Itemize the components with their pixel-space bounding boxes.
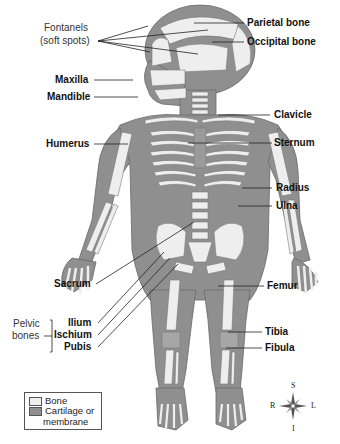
label-femur: Femur	[267, 280, 298, 292]
sternum-bone	[194, 128, 206, 168]
label-fibula: Fibula	[265, 342, 294, 354]
mandible-bone	[154, 88, 186, 100]
fibula-bone	[231, 352, 235, 384]
label-radius: Radius	[276, 182, 309, 194]
legend-label-cartilage: Cartilage or	[45, 405, 94, 416]
legend-item-cartilage: Cartilage or	[29, 405, 94, 416]
compass-left-label: L	[311, 401, 316, 410]
label-ischium: Ischium	[54, 329, 92, 341]
label-mandible: Mandible	[47, 91, 90, 103]
label-ilium: Ilium	[68, 317, 91, 329]
tibia-bone	[220, 350, 230, 384]
compass-rose-icon	[279, 392, 307, 420]
lumbar-vertebrae	[192, 192, 208, 239]
label-occipital-bone: Occipital bone	[247, 36, 316, 48]
label-fontanels-line1: Fontanels	[44, 22, 88, 34]
label-pubis: Pubis	[64, 341, 91, 353]
compass-superior-label: S	[291, 381, 295, 390]
label-maxilla: Maxilla	[55, 74, 88, 86]
label-ulna: Ulna	[276, 200, 298, 212]
label-fontanels-line2: (soft spots)	[40, 35, 89, 47]
label-sternum: Sternum	[274, 137, 315, 149]
compass-inferior-label: I	[292, 424, 295, 433]
label-pelvic-line1: Pelvic	[13, 318, 40, 330]
temporal-bone	[176, 44, 228, 72]
maxilla-bone	[150, 70, 185, 86]
label-pelvic-line2: bones	[12, 330, 39, 342]
ilium-bone	[156, 223, 186, 260]
legend-label-membrane: membrane	[43, 416, 88, 427]
label-humerus: Humerus	[46, 138, 89, 150]
cartilage-swatch	[29, 407, 42, 416]
legend-item-cartilage-line2: membrane	[43, 416, 88, 427]
legend: Bone Cartilage or membrane	[24, 392, 102, 430]
compass-right-label: R	[270, 401, 275, 410]
label-parietal-bone: Parietal bone	[247, 17, 310, 29]
label-sacrum: Sacrum	[54, 278, 91, 290]
label-tibia: Tibia	[265, 326, 288, 338]
label-clavicle: Clavicle	[274, 109, 312, 121]
infant-skeleton-illustration	[0, 0, 340, 444]
